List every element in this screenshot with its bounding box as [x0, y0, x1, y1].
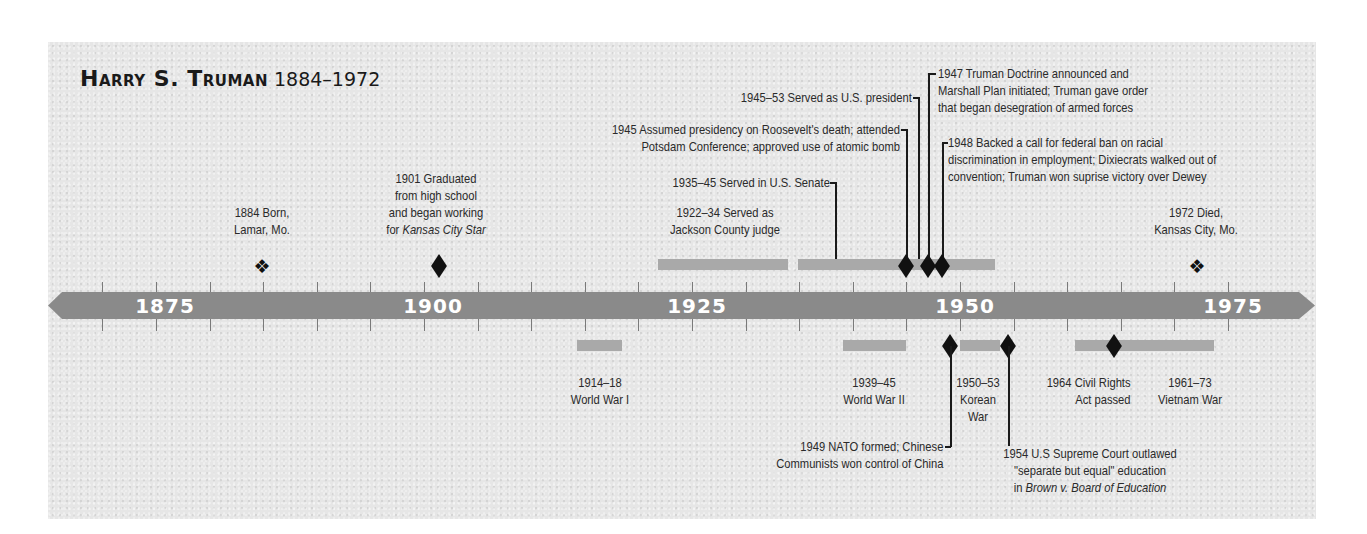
axis-tick [102, 319, 103, 331]
axis-tick [585, 282, 586, 292]
axis-tick [317, 319, 318, 331]
event-ww2-label: 1939–45 World War II [829, 374, 918, 408]
axis-tick [370, 282, 371, 292]
event-1948-label: 1948 Backed a call for federal ban on ra… [948, 134, 1216, 185]
axis-tick [906, 319, 907, 331]
event-1948-leader-line [942, 142, 944, 265]
event-judge-label: 1922–34 Served as Jackson County judge [652, 204, 798, 238]
event-doctrine-label: 1947 Truman Doctrine announced and Marsh… [938, 65, 1148, 116]
axis-tick [531, 319, 532, 331]
axis-tick [1014, 319, 1015, 331]
brown-leader-line [1008, 346, 1010, 446]
axis-tick [746, 282, 747, 292]
axis-label-1925: 1925 [667, 294, 727, 318]
axis-tick [638, 282, 639, 292]
axis-tick [638, 319, 639, 331]
senate-presidency-bar [798, 259, 995, 270]
axis-tick [960, 282, 961, 292]
event-graduated-label: 1901 Graduated from high school and bega… [367, 170, 505, 238]
vietnam-bar [1075, 340, 1214, 351]
event-senate-label: 1935–45 Served in U.S. Senate [673, 174, 830, 191]
axis-tick [1067, 319, 1068, 331]
event-nato-label: 1949 NATO formed; Chinese Communists won… [776, 438, 943, 472]
axis-tick [1121, 282, 1122, 292]
event-vietnam-label: 1961–73 Vietnam War [1147, 374, 1233, 408]
axis-tick [853, 319, 854, 331]
born-marker-icon: ❖ [253, 257, 270, 276]
axis-tick [424, 282, 425, 292]
axis-tick [1174, 282, 1175, 292]
ww2-bar [843, 340, 906, 351]
axis-tick [746, 319, 747, 331]
event-korea-label: 1950–53 Korean War [952, 374, 1004, 425]
nato-leader-line [950, 346, 952, 447]
axis-tick [1121, 319, 1122, 331]
axis-tick [692, 282, 693, 292]
title-name: Harry S. Truman [80, 66, 268, 91]
died-marker-icon: ❖ [1188, 257, 1205, 276]
axis-label-1975: 1975 [1203, 294, 1263, 318]
doctrine-leader-line [928, 73, 930, 265]
axis-tick [102, 282, 103, 292]
axis-tick [853, 282, 854, 292]
ww1-bar [577, 340, 622, 351]
axis-tick [1067, 282, 1068, 292]
axis-tick [478, 319, 479, 331]
nato-leader-hook [945, 446, 951, 448]
axis-tick [799, 282, 800, 292]
event-president-label: 1945–53 Served as U.S. president [741, 89, 912, 106]
axis-tick [156, 319, 157, 331]
title-dates: 1884–1972 [274, 68, 380, 90]
senate-leader-line [835, 182, 837, 259]
timeline-title: Harry S. Truman1884–1972 [80, 66, 380, 91]
axis-tick [531, 282, 532, 292]
axis-tick [906, 282, 907, 292]
axis-tick [317, 282, 318, 292]
event-brown-label: 1954 U.S Supreme Court outlawed "separat… [995, 445, 1184, 496]
axis-tick [263, 282, 264, 292]
axis-tick [210, 282, 211, 292]
axis-tick [692, 319, 693, 331]
axis-tick [1228, 282, 1229, 292]
axis-tick [210, 319, 211, 331]
axis-tick [370, 319, 371, 331]
axis-label-1875: 1875 [135, 294, 195, 318]
event-civil-rights-act-label: 1964 Civil Rights Act passed [1047, 374, 1131, 408]
axis-label-1950: 1950 [935, 294, 995, 318]
axis-tick [1174, 319, 1175, 331]
event-ww1-label: 1914–18 World War I [557, 374, 643, 408]
axis-tick [960, 319, 961, 331]
judge-bar [658, 259, 788, 270]
event-assumed-label: 1945 Assumed presidency on Roosevelt's d… [612, 121, 900, 155]
axis-tick [478, 282, 479, 292]
axis-tick [1014, 282, 1015, 292]
axis-tick [263, 319, 264, 331]
axis-tick [799, 319, 800, 331]
korea-bar [960, 340, 1000, 351]
event-died-label: 1972 Died, Kansas City, Mo. [1148, 204, 1244, 238]
axis-tick [585, 319, 586, 331]
axis-tick [156, 282, 157, 292]
assumed-leader-line [906, 129, 908, 265]
axis-label-1900: 1900 [403, 294, 463, 318]
axis-tick [424, 319, 425, 331]
axis-tick [1228, 319, 1229, 331]
president-leader-line [918, 97, 920, 259]
event-born-label: 1884 Born, Lamar, Mo. [219, 204, 305, 238]
